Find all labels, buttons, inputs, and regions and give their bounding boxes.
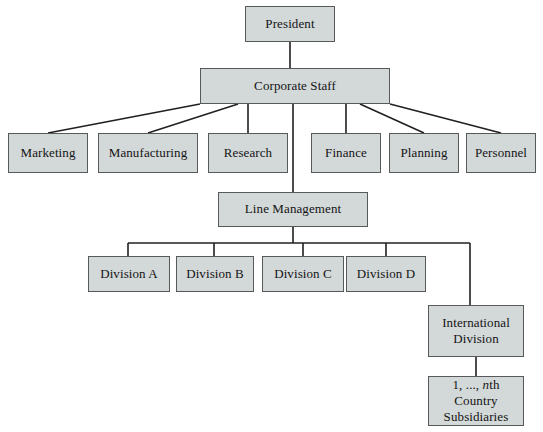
node-country-subsidiaries-label-line1: 1, ..., nth (453, 377, 500, 393)
node-country-subsidiaries[interactable]: 1, ..., nth Country Subsidiaries (428, 376, 524, 426)
node-division-b[interactable]: Division B (176, 256, 254, 292)
node-country-subsidiaries-label-line2: Country (454, 393, 497, 409)
edge-corporate-staff-to-manufacturing (148, 104, 238, 133)
node-international-division-label-line2: Division (453, 331, 499, 347)
node-planning[interactable]: Planning (389, 133, 459, 173)
node-corporate-staff[interactable]: Corporate Staff (200, 68, 390, 104)
node-division-d[interactable]: Division D (346, 256, 426, 292)
node-personnel-label: Personnel (475, 146, 527, 161)
node-division-a[interactable]: Division A (88, 256, 170, 292)
node-international-division[interactable]: International Division (428, 305, 524, 357)
node-line-management-label: Line Management (245, 202, 341, 217)
node-marketing[interactable]: Marketing (8, 133, 88, 173)
node-finance-label: Finance (325, 146, 367, 161)
node-corporate-staff-label: Corporate Staff (254, 79, 336, 94)
edge-corporate-staff-to-planning (360, 104, 424, 133)
node-research[interactable]: Research (208, 133, 288, 173)
node-division-c[interactable]: Division C (262, 256, 344, 292)
org-chart-diagram: President Corporate Staff Marketing Manu… (0, 0, 543, 432)
country-subsidiaries-suffix: th (489, 377, 499, 392)
edge-corporate-staff-to-personnel (390, 104, 501, 133)
node-planning-label: Planning (400, 146, 447, 161)
node-country-subsidiaries-label-line3: Subsidiaries (444, 409, 509, 425)
node-manufacturing-label: Manufacturing (109, 146, 188, 161)
country-subsidiaries-prefix: 1, ..., (453, 377, 483, 392)
node-international-division-label-line1: International (442, 315, 510, 331)
node-personnel[interactable]: Personnel (466, 133, 536, 173)
node-president[interactable]: President (245, 6, 335, 42)
node-marketing-label: Marketing (20, 146, 75, 161)
node-president-label: President (265, 17, 314, 32)
node-division-b-label: Division B (186, 267, 244, 282)
node-finance[interactable]: Finance (311, 133, 381, 173)
node-division-a-label: Division A (100, 267, 158, 282)
node-division-d-label: Division D (357, 267, 415, 282)
node-division-c-label: Division C (274, 267, 332, 282)
node-line-management[interactable]: Line Management (218, 192, 368, 227)
node-research-label: Research (224, 146, 272, 161)
edge-corporate-staff-to-marketing (48, 104, 200, 133)
node-manufacturing[interactable]: Manufacturing (98, 133, 198, 173)
